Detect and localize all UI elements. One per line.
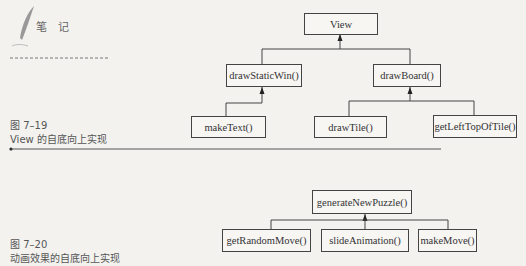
figure-7-20-caption: 动画效果的自底向上实现 [10, 250, 120, 265]
node-make-move: makeMove() [418, 229, 477, 252]
node-get-random-move: getRandomMove() [222, 229, 311, 252]
node-slide-animation: slideAnimation() [321, 229, 409, 252]
node-view: View [304, 13, 378, 35]
node-generate-new-puzzle: generateNewPuzzle() [312, 190, 412, 214]
feather-icon [12, 6, 34, 46]
notes-label: 笔 记 [36, 18, 74, 34]
node-make-text: makeText() [191, 116, 266, 138]
figure-7-20-number: 图 7–20 [10, 236, 47, 251]
node-draw-static-win: drawStaticWin() [226, 64, 302, 87]
node-draw-board: drawBoard() [373, 64, 441, 87]
figure-7-19-caption: View 的自底向上实现 [10, 131, 107, 146]
figure-7-19-number: 图 7–19 [10, 117, 47, 132]
node-get-left-top-of-tile: getLeftTopOfTile() [433, 115, 517, 138]
node-draw-tile: drawTile() [314, 116, 387, 138]
